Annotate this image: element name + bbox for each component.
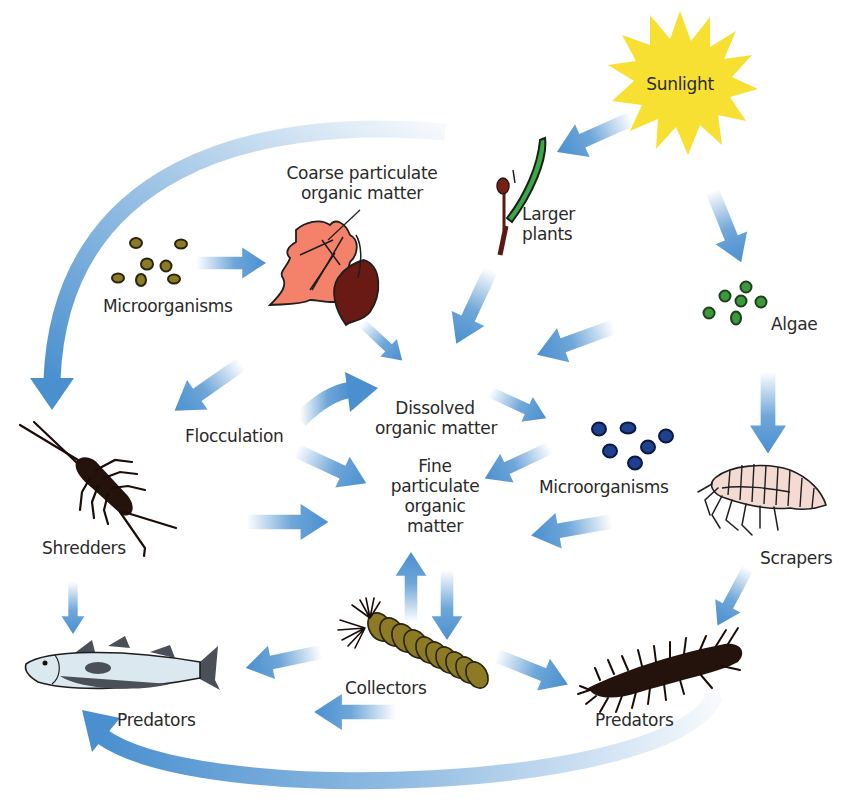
arrow-shredders-to-fpom bbox=[247, 504, 329, 540]
arrow-flocculation-to-dom bbox=[300, 372, 378, 420]
label-collectors: Collectors bbox=[345, 678, 426, 698]
label-cpom: Coarse particulate organic matter bbox=[272, 163, 452, 203]
arrow-shredders-to-fish bbox=[62, 582, 85, 634]
arrow-algae-to-scrapers bbox=[750, 372, 786, 454]
arrow-scrapers-to-fpom bbox=[528, 504, 615, 554]
arrow-cpom-to-dom bbox=[354, 314, 411, 369]
label-flocculation: Flocculation bbox=[185, 426, 283, 446]
shredder-insect-icon bbox=[20, 422, 176, 556]
label-shredders: Shredders bbox=[42, 538, 126, 558]
label-algae: Algae bbox=[771, 314, 818, 334]
arrow-sunlight-to-larger-plants bbox=[550, 102, 639, 168]
label-predators-insect: Predators bbox=[595, 710, 673, 730]
arrow-collectors-to-fish bbox=[242, 635, 325, 684]
label-scrapers: Scrapers bbox=[760, 548, 832, 568]
arrow-scrapers-to-insect-predators bbox=[705, 561, 761, 632]
microbe-cluster-icon-olive bbox=[112, 238, 187, 286]
arrow-cpom-to-shredders bbox=[164, 349, 252, 425]
arrow-insect-predators-to-fish-arc bbox=[82, 695, 715, 781]
algae-icon bbox=[704, 282, 767, 325]
arrow-algae-to-dom bbox=[531, 310, 620, 372]
arrow-larger-plants-to-dom bbox=[440, 262, 507, 351]
label-predators-fish: Predators bbox=[117, 710, 195, 730]
fish-icon bbox=[26, 636, 221, 690]
label-microorganisms-mid: Microorganisms bbox=[539, 477, 669, 497]
arrow-flocculation-to-fpom bbox=[289, 435, 373, 498]
arrow-collectors-to-fpom bbox=[396, 552, 427, 622]
arrow-sunlight-to-algae bbox=[696, 184, 756, 268]
label-larger-plants: Larger plants bbox=[522, 204, 575, 244]
scraper-crustacean-icon bbox=[698, 464, 826, 535]
leaves-icon bbox=[270, 210, 378, 325]
label-microorganisms-top: Microorganisms bbox=[103, 296, 233, 316]
label-dom: Dissolved organic matter bbox=[375, 398, 495, 438]
microbe-cluster-icon-blue bbox=[592, 423, 673, 470]
label-fpom: Fine particulate organic matter bbox=[385, 456, 485, 536]
arrow-microorganisms-to-cpom bbox=[196, 248, 266, 279]
arrow-collectors-to-insect-predators bbox=[490, 640, 574, 700]
label-sunlight: Sunlight bbox=[640, 74, 720, 94]
arrow-fpom-to-collectors bbox=[432, 570, 463, 640]
arrow-insect-predators-to-fish-horizontal bbox=[314, 694, 396, 730]
